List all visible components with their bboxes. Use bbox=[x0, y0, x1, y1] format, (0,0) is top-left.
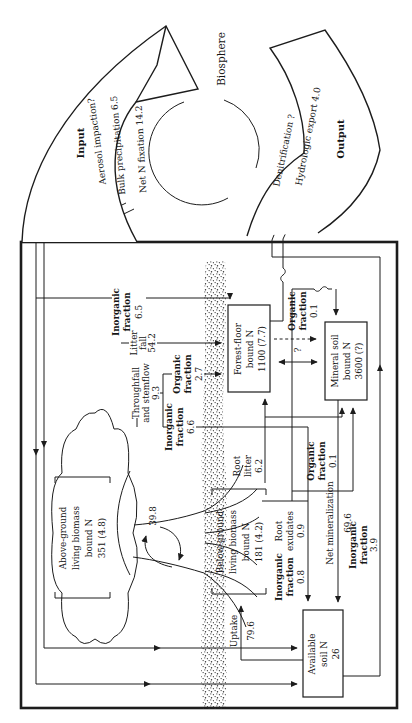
available-soil-line2: soil N bbox=[319, 641, 329, 667]
throughfall-inorganic-line3: 6.6 bbox=[186, 420, 196, 434]
hole-arc-1 bbox=[224, 100, 259, 168]
below-ground-line1: Below-ground bbox=[215, 510, 225, 573]
hole-arc-2 bbox=[149, 102, 228, 205]
above-ground-line2: living biomass bbox=[71, 506, 81, 570]
exudates-organic-line3: 0.1 bbox=[328, 454, 338, 468]
forest-floor-line1: Forest-floor bbox=[233, 322, 243, 375]
above-ground-line1: Above-ground bbox=[58, 506, 68, 570]
throughfall-organic-line1: Organic bbox=[172, 354, 182, 393]
input-band-fill bbox=[22, 26, 198, 242]
available-soil-line1: Available bbox=[307, 634, 317, 676]
throughfall-inorganic-line1: Inorganic bbox=[164, 403, 174, 451]
exudates-organic-line1: Organic bbox=[306, 441, 316, 480]
exudates-organic-squiggle bbox=[292, 287, 332, 292]
exudates-inorganic-line3: 0.8 bbox=[296, 570, 306, 584]
mineral-soil-line3: 3600 (?) bbox=[354, 343, 364, 380]
root-litter-line1: Root bbox=[232, 455, 242, 476]
root-exudates-line3: 0.9 bbox=[296, 524, 306, 538]
exudates-organic-line2: fraction bbox=[317, 441, 327, 481]
available-soil-line3: 26 bbox=[331, 648, 341, 660]
input-inorganic-line3: 6.5 bbox=[134, 305, 144, 319]
biosphere-label: Biosphere bbox=[215, 32, 227, 86]
mineral-soil-line1: Mineral soil bbox=[330, 334, 340, 387]
trunk-left bbox=[133, 557, 204, 573]
root-litter-line2: litter bbox=[243, 454, 253, 477]
translocation-arc-down bbox=[160, 527, 181, 560]
throughfall-line2: and stemflow bbox=[141, 363, 151, 423]
input-title: Input bbox=[75, 127, 86, 158]
exudates-inorganic-line2: fraction bbox=[285, 557, 295, 597]
unknown-transfer-label: ? bbox=[293, 347, 303, 352]
input-inorganic-line1: Inorganic bbox=[111, 288, 121, 336]
throughfall-inorganic-line2: fraction bbox=[175, 407, 185, 447]
nitrogen-cycle-figure: Biosphere Input Aerosol impaction? Bulk … bbox=[0, 0, 412, 723]
mineral-soil-line2: bound N bbox=[342, 342, 352, 381]
forest-floor-line3: 1100 (7.7) bbox=[257, 326, 267, 372]
below-ground-line4: 181 (4.2) bbox=[254, 522, 264, 562]
uptake-label: Uptake bbox=[229, 615, 239, 647]
input-inorganic-line2: fraction bbox=[122, 292, 132, 332]
root-to-mineral-line bbox=[265, 408, 342, 417]
above-ground-line4: 351 (4.8) bbox=[97, 518, 107, 558]
root-exudates-line1: Root bbox=[274, 520, 284, 541]
root-exudates-line2: exudates bbox=[285, 511, 295, 551]
exudates-inorganic-line1: Inorganic bbox=[274, 553, 284, 601]
root-litter-line3: 6.2 bbox=[254, 459, 264, 473]
uptake-value: 79.6 bbox=[246, 621, 256, 641]
export-inorganic-line3: 3.9 bbox=[369, 538, 379, 552]
throughfall-organic-line2: fraction bbox=[183, 354, 193, 394]
rotated-canvas: Biosphere Input Aerosol impaction? Bulk … bbox=[21, 26, 397, 709]
throughfall-organic-line3: 2.7 bbox=[194, 367, 204, 381]
soil-surface-band bbox=[201, 261, 227, 709]
above-ground-line3: bound N bbox=[84, 519, 94, 558]
translocation-value: 39.8 bbox=[148, 506, 158, 526]
export-organic-line3: 0.1 bbox=[309, 304, 319, 318]
litter-fall-line3: 54.2 bbox=[147, 333, 157, 353]
below-ground-line3: bound N bbox=[241, 523, 251, 562]
translocation-arc-up bbox=[145, 536, 172, 567]
export-inorganic-line2: fraction bbox=[359, 525, 369, 565]
input-flow-fixation: Net N fixation 14.2 bbox=[134, 105, 149, 193]
throughfall-line3: 9.3 bbox=[151, 386, 161, 400]
below-ground-line2: living biomass bbox=[228, 510, 238, 574]
diagram-svg: Biosphere Input Aerosol impaction? Bulk … bbox=[0, 0, 412, 723]
forest-floor-line2: bound N bbox=[245, 330, 255, 369]
trunk-right bbox=[134, 511, 204, 525]
mineralization-label: Net mineralization bbox=[325, 481, 335, 565]
export-organic-line1: Organic bbox=[287, 291, 297, 330]
export-organic-line2: fraction bbox=[298, 291, 308, 331]
throughfall-line1: Throughfall bbox=[131, 367, 141, 419]
mineralization-value: 69.6 bbox=[343, 513, 353, 533]
output-title: Output bbox=[335, 119, 346, 159]
